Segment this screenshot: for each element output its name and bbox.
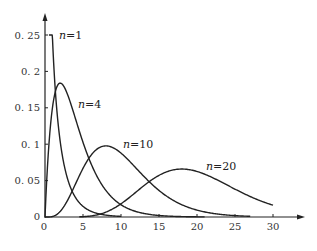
y-tick-label: 0. 25 xyxy=(15,30,40,41)
curve-n1 xyxy=(49,35,121,216)
y-tick-label: 0. 05 xyxy=(15,175,40,186)
x-tick-label: 10 xyxy=(115,221,128,232)
label-n1: n=1 xyxy=(59,29,82,42)
chi-square-density-chart: 0 0. 05 0. 1 0. 15 0. 2 0. 25 0 5 10 15 … xyxy=(0,0,317,251)
label-n20: n=20 xyxy=(206,160,236,173)
y-axis-arrow-icon xyxy=(43,13,48,21)
curves xyxy=(45,35,273,217)
x-tick-label: 30 xyxy=(267,221,280,232)
x-tick-label: 15 xyxy=(153,221,166,232)
x-axis-arrow-icon xyxy=(297,215,305,220)
y-tick-label: 0. 15 xyxy=(15,102,40,113)
label-n10: n=10 xyxy=(123,138,153,151)
label-n4: n=4 xyxy=(78,98,101,111)
y-tick-label: 0. 1 xyxy=(21,139,40,150)
y-tick-label: 0 xyxy=(34,211,40,222)
y-tick-label: 0. 2 xyxy=(21,66,40,77)
x-tick-label: 5 xyxy=(80,221,86,232)
x-tick-label: 25 xyxy=(229,221,242,232)
x-tick-label: 20 xyxy=(191,221,204,232)
x-tick-label: 0 xyxy=(41,221,47,232)
